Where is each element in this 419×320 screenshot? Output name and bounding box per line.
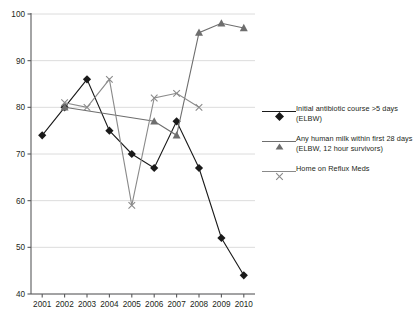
triangle-marker-icon <box>173 131 181 138</box>
diamond-marker-icon <box>262 106 296 117</box>
x-axis-tick-label: 2010 <box>235 300 254 309</box>
y-axis-tick-label: 70 <box>16 150 26 159</box>
diamond-marker-icon <box>217 234 225 242</box>
legend-item-label: Home on Reflux Meds <box>296 164 370 174</box>
y-axis-tick-label: 100 <box>11 10 25 19</box>
x-axis-tick-label: 2002 <box>55 300 74 309</box>
series-1 <box>38 75 248 279</box>
y-axis-tick-label: 80 <box>16 103 26 112</box>
x-axis-tick-label: 2004 <box>100 300 119 309</box>
diamond-marker-icon <box>150 164 158 172</box>
x-axis-tick-label: 2006 <box>145 300 164 309</box>
chart-legend: Initial antibiotic course >5 days (ELBW)… <box>262 104 414 188</box>
triangle-marker-icon <box>262 136 296 147</box>
triangle-marker-icon <box>195 28 203 35</box>
series-3 <box>61 76 202 209</box>
triangle-marker-icon <box>217 19 225 26</box>
x-axis-tick-label: 2003 <box>78 300 97 309</box>
x-axis-tick-label: 2001 <box>33 300 52 309</box>
y-axis-tick-label: 40 <box>16 290 26 299</box>
legend-item-home-on-reflux-meds: Home on Reflux Meds <box>262 164 414 177</box>
y-axis-tick-label: 50 <box>16 243 26 252</box>
x-axis-tick-label: 2007 <box>167 300 186 309</box>
y-axis-tick-label: 60 <box>16 197 26 206</box>
legend-item-label: Any human milk within first 28 days (ELB… <box>296 134 414 153</box>
legend-item-label: Initial antibiotic course >5 days (ELBW) <box>296 104 414 123</box>
legend-item-initial-antibiotic-course: Initial antibiotic course >5 days (ELBW) <box>262 104 414 123</box>
x-axis-tick-label: 2009 <box>212 300 231 309</box>
x-marker-icon <box>262 166 296 177</box>
x-axis-tick-label: 2008 <box>190 300 209 309</box>
legend-item-any-human-milk: Any human milk within first 28 days (ELB… <box>262 134 414 153</box>
diamond-marker-icon <box>195 164 203 172</box>
diamond-marker-icon <box>240 271 248 279</box>
chart-figure: 4050607080901002001200220032004200520062… <box>0 0 419 320</box>
y-axis-tick-label: 90 <box>16 57 26 66</box>
series-line <box>65 79 199 205</box>
x-axis-tick-label: 2005 <box>123 300 142 309</box>
